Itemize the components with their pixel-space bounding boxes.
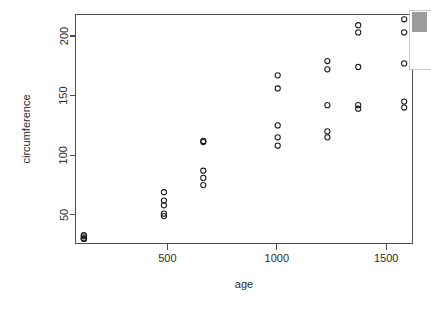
data-point: [402, 17, 407, 22]
data-point: [402, 99, 407, 104]
y-tick-label: 50: [58, 209, 70, 221]
data-point: [201, 168, 206, 173]
data-point: [402, 61, 407, 66]
y-tick-label: 100: [58, 146, 70, 164]
data-point: [356, 64, 361, 69]
data-point: [356, 30, 361, 35]
scrollbar-thumb[interactable]: [412, 12, 427, 32]
y-tick-label: 200: [58, 27, 70, 45]
data-point: [402, 30, 407, 35]
x-tick-label: 500: [158, 252, 176, 264]
data-point: [275, 123, 280, 128]
plot-canvas: 50100150200 50010001500 age circumferenc…: [0, 0, 431, 310]
data-point: [275, 73, 280, 78]
y-axis-title: circumference: [20, 94, 32, 163]
data-point: [201, 175, 206, 180]
data-point: [402, 105, 407, 110]
data-point: [161, 190, 166, 195]
data-point: [275, 135, 280, 140]
x-axis: 50010001500: [158, 244, 398, 264]
scatter-plot-figure: 50100150200 50010001500 age circumferenc…: [0, 0, 431, 310]
side-panel-fragment[interactable]: [409, 10, 431, 70]
plot-frame: [76, 15, 413, 244]
x-tick-label: 1000: [265, 252, 289, 264]
data-point: [201, 182, 206, 187]
data-point: [325, 67, 330, 72]
data-point: [275, 86, 280, 91]
x-tick-label: 1500: [374, 252, 398, 264]
data-point: [325, 129, 330, 134]
data-point: [356, 106, 361, 111]
y-axis: 50100150200: [58, 27, 76, 221]
data-points: [81, 17, 407, 242]
data-point: [325, 135, 330, 140]
x-axis-title: age: [235, 278, 253, 290]
data-point: [325, 58, 330, 63]
data-point: [325, 103, 330, 108]
data-point: [356, 23, 361, 28]
y-tick-label: 150: [58, 86, 70, 104]
data-point: [275, 143, 280, 148]
